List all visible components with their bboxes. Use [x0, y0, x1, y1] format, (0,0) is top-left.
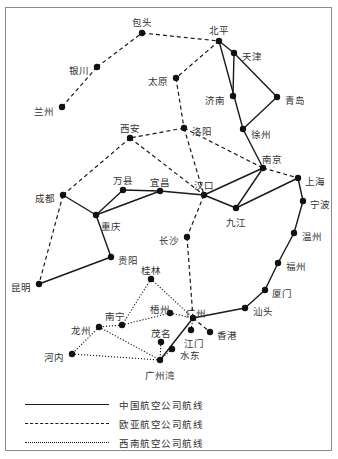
cnac-route-wanxian-chongqing [96, 190, 123, 215]
legend: 中国航空公司航线 欧亚航空公司航线 西南航空公司航线 [25, 395, 315, 452]
legend-label: 中国航空公司航线 [119, 398, 203, 412]
city-label-guilin: 桂林 [141, 265, 161, 276]
city-dot-icon-kunming [36, 281, 42, 287]
cnac-route-shanghai-ningbo [298, 178, 303, 201]
city-label-shantou: 汕头 [253, 306, 273, 317]
eurasia-route-chengdu-kunming [39, 195, 63, 284]
city-dot-icon-wenzhou [291, 230, 297, 236]
eurasia-route-nanjing-shanghai [263, 168, 298, 178]
city-label-jiangmen: 江门 [184, 338, 204, 349]
eurasia-route-hankou-changsha [187, 195, 204, 237]
eurasia-route-guangzhou-xianggang [193, 318, 210, 332]
city-dot-icon-jinan [230, 93, 236, 99]
eurasia-route-yinchuan-baotou [97, 33, 142, 67]
city-label-xuzhou: 徐州 [251, 129, 271, 140]
eurasia-route-changsha-guangzhou [187, 237, 193, 318]
city-dot-icon-guiyang [108, 254, 114, 260]
cnac-route-tianjin-jinan [233, 53, 234, 96]
city-label-wenzhou: 温州 [302, 231, 322, 242]
city-label-yichang: 宜昌 [150, 177, 170, 188]
legend-item-southwest: 西南航空公司航线 [25, 433, 315, 452]
city-label-chengdu: 成都 [35, 193, 55, 204]
city-label-ningbo: 宁波 [310, 199, 330, 210]
southwest-route-hanoi-guangzhouwan [72, 354, 160, 360]
eurasia-route-baotou-beiping [142, 33, 219, 41]
city-dot-icon-jiangmen [188, 327, 194, 333]
legend-label: 欧亚航空公司航线 [119, 417, 203, 431]
city-dot-icon-nanjing [260, 165, 266, 171]
city-dot-icon-xiamen [262, 287, 268, 293]
city-label-xianggang: 香港 [217, 330, 237, 341]
city-dot-icon-jiujiang [233, 205, 239, 211]
city-label-luoyang: 洛阳 [192, 126, 212, 137]
city-dot-icon-tianjin [231, 50, 237, 56]
city-dot-icon-fuzhou [275, 260, 281, 266]
city-dot-icon-hanoi [69, 351, 75, 357]
city-label-longzhou: 龙州 [71, 325, 91, 336]
city-dot-icon-ningbo [300, 198, 306, 204]
city-label-hankou: 汉口 [194, 180, 214, 191]
city-label-fuzhou: 福州 [286, 261, 306, 272]
cnac-route-guiyang-kunming [39, 257, 111, 284]
legend-item-eurasia: 欧亚航空公司航线 [25, 414, 315, 433]
city-dot-icon-chengdu [60, 192, 66, 198]
legend-label: 西南航空公司航线 [119, 436, 203, 450]
solid-line-swatch [25, 404, 109, 405]
city-dot-icon-xianggang [207, 329, 213, 335]
southwest-route-nanning-wuzhou [122, 313, 170, 325]
dashed-line-swatch [25, 423, 109, 424]
city-dot-icon-beiping [216, 38, 222, 44]
city-label-qingdao: 青岛 [285, 95, 305, 106]
city-label-lanzhou: 兰州 [34, 106, 54, 117]
city-label-guiyang: 贵阳 [118, 255, 138, 266]
cnac-route-hankou-yichang [160, 191, 204, 195]
city-dot-icon-hankou [201, 192, 207, 198]
city-label-chongqing: 重庆 [101, 221, 121, 232]
city-dot-icon-maoming [158, 339, 164, 345]
city-dot-icon-shuidong [169, 346, 175, 352]
southwest-route-guilin-nanning [122, 279, 151, 325]
city-label-jinan: 济南 [205, 95, 225, 106]
cnac-route-fuzhou-xiamen [265, 263, 278, 290]
city-dot-icon-wanxian [120, 187, 126, 193]
dotted-line-swatch [25, 442, 109, 443]
city-label-kunming: 昆明 [11, 282, 31, 293]
cnac-route-yichang-chongqing [96, 191, 160, 215]
cnac-route-yichang-wanxian [123, 190, 160, 191]
city-dot-icon-guangzhouwan [157, 357, 163, 363]
cnac-route-wenzhou-fuzhou [278, 233, 294, 263]
city-label-hanoi: 河内 [44, 352, 64, 363]
city-dot-icon-nanning [119, 322, 125, 328]
city-dot-icon-yinchuan [94, 64, 100, 70]
cnac-route-qingdao-xuzhou [243, 97, 277, 129]
city-label-jiujiang: 九江 [226, 217, 246, 228]
city-dot-icon-chongqing [93, 212, 99, 218]
southwest-route-nanning-longzhou [99, 325, 122, 327]
cnac-route-ningbo-wenzhou [294, 201, 303, 233]
city-dot-icon-changsha [184, 234, 190, 240]
city-label-nanning: 南宁 [105, 311, 125, 322]
city-label-nanjing: 南京 [262, 154, 282, 165]
city-dot-icon-guilin [148, 276, 154, 282]
city-label-xian: 西安 [120, 123, 140, 134]
city-label-guangzhou: 广州 [186, 308, 206, 319]
city-dot-icon-luoyang [181, 125, 187, 131]
city-label-wuzhou: 梧州 [150, 304, 170, 315]
cnac-route-chongqing-chengdu [63, 195, 96, 215]
city-dot-icon-xuzhou [240, 126, 246, 132]
city-dot-icon-baotou [139, 30, 145, 36]
city-label-wanxian: 万县 [113, 175, 133, 186]
city-dot-icon-xian [127, 135, 133, 141]
eurasia-route-taiyuan-luoyang [176, 78, 184, 128]
city-label-baotou: 包头 [132, 17, 152, 28]
city-dot-icon-taiyuan [173, 75, 179, 81]
city-label-yinchuan: 银川 [69, 65, 89, 76]
eurasia-route-xian-chengdu [63, 138, 130, 195]
eurasia-route-beiping-taiyuan [176, 41, 219, 78]
city-dot-icon-shanghai [295, 175, 301, 181]
city-label-guangzhouwan: 广州湾 [145, 370, 175, 381]
city-label-changsha: 长沙 [159, 235, 179, 246]
city-label-taiyuan: 太原 [148, 76, 168, 87]
city-label-shuidong: 水东 [180, 350, 200, 361]
city-label-maoming: 茂名 [151, 328, 171, 339]
